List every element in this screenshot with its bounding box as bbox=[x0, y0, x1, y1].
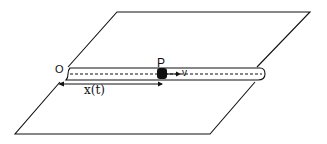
particle-label: P bbox=[157, 57, 165, 69]
velocity-label: v bbox=[182, 68, 187, 78]
position-arrowhead-left-icon bbox=[58, 82, 64, 87]
diagram-canvas bbox=[0, 0, 327, 144]
position-arrowhead-right-icon bbox=[158, 82, 163, 87]
lower-plane bbox=[15, 82, 255, 134]
position-label: x(t) bbox=[84, 84, 105, 96]
origin-label: O bbox=[55, 64, 64, 75]
upper-plane bbox=[68, 12, 310, 67]
